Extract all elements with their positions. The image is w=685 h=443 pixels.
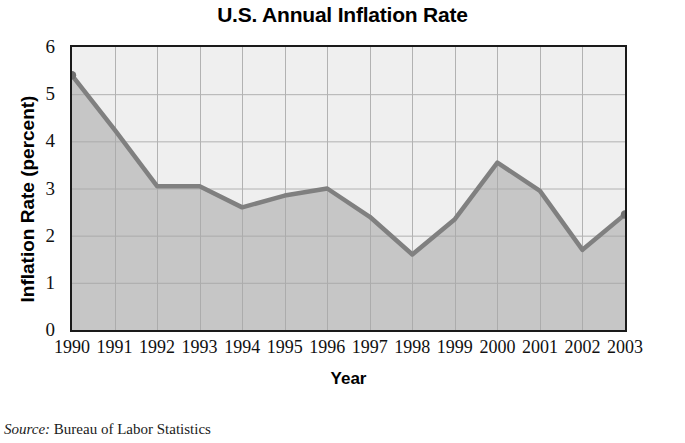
y-tick-label: 5 [0, 83, 62, 105]
x-axis-title: Year [70, 369, 627, 389]
plot-area [70, 45, 627, 332]
chart-title: U.S. Annual Inflation Rate [0, 3, 685, 27]
area-chart-svg [72, 47, 625, 330]
y-tick-label: 2 [0, 225, 62, 247]
source-label: Source: [4, 421, 50, 437]
y-tick-label: 3 [0, 178, 62, 200]
y-tick-label: 1 [0, 272, 62, 294]
x-axis-tick-labels: 1990199119921993199419951996199719981999… [70, 337, 627, 363]
source-text: Bureau of Labor Statistics [50, 421, 211, 437]
source-note: Source: Bureau of Labor Statistics [4, 421, 211, 438]
x-tick-label: 2003 [595, 337, 655, 358]
y-tick-label: 6 [0, 36, 62, 58]
y-axis-tick-labels: 0123456 [0, 45, 62, 332]
y-tick-label: 4 [0, 130, 62, 152]
inflation-rate-chart-figure: U.S. Annual Inflation Rate Inflation Rat… [0, 0, 685, 443]
